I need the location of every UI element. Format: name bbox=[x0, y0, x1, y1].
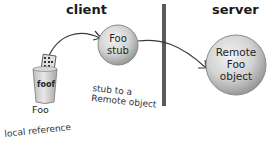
remote-label-line1: Remote bbox=[206, 46, 266, 58]
foo-label: Foo bbox=[32, 104, 49, 115]
remote-label-line2: Foo bbox=[206, 58, 266, 70]
remote-object-label: Remote Foo object bbox=[206, 46, 266, 82]
stub-label: Foo stub bbox=[98, 33, 138, 57]
stub-label-line2: stub bbox=[98, 45, 138, 57]
stub-label-line1: Foo bbox=[98, 33, 138, 45]
cup-label: foof bbox=[36, 80, 56, 89]
arrow-reference-to-stub bbox=[48, 33, 100, 58]
remote-label-line3: object bbox=[206, 70, 266, 82]
client-heading: client bbox=[66, 2, 107, 17]
arrow-stub-to-remote bbox=[138, 40, 205, 67]
client-server-divider bbox=[162, 4, 166, 106]
server-heading: server bbox=[212, 2, 259, 17]
